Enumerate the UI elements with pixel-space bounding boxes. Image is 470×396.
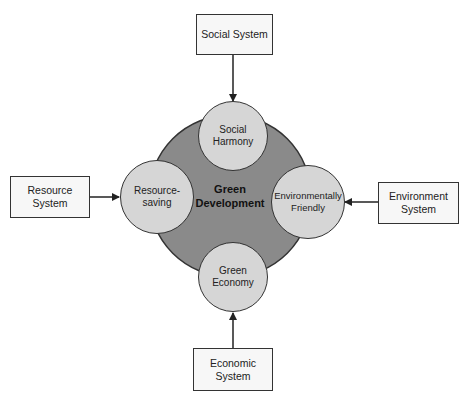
social-harmony-circle: Social Harmony	[198, 101, 268, 171]
green-economy-circle: Green Economy	[198, 242, 268, 312]
resource-system-box: Resource System	[10, 176, 90, 218]
environmentally-friendly-label: Environmentally Friendly	[274, 190, 342, 215]
economic-system-box: Economic System	[193, 348, 273, 391]
environment-system-box: Environment System	[378, 182, 459, 224]
social-system-box: Social System	[196, 14, 273, 55]
resource-saving-circle: Resource- saving	[120, 160, 194, 234]
environment-system-label: Environment System	[389, 190, 448, 216]
green-economy-label: Green Economy	[212, 265, 254, 290]
social-system-label: Social System	[201, 28, 268, 41]
social-harmony-label: Social Harmony	[213, 124, 254, 149]
resource-saving-label: Resource- saving	[134, 185, 180, 210]
green-development-label: Green Development	[180, 182, 280, 210]
environmentally-friendly-circle: Environmentally Friendly	[271, 165, 345, 239]
economic-system-label: Economic System	[194, 357, 272, 383]
resource-system-label: Resource System	[11, 184, 89, 210]
